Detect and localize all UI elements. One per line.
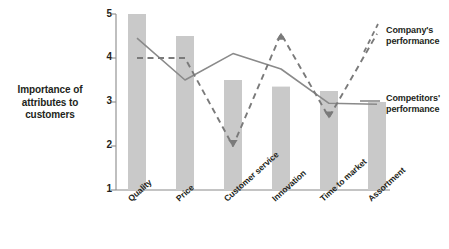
legend-item-competitors: Competitors' performance [386, 93, 440, 115]
bar-innovation [272, 87, 290, 190]
legend-item-company: Company's performance [386, 25, 439, 47]
legend-dashed-sample [364, 24, 378, 52]
bar-quality [128, 14, 146, 190]
bar-assortment [368, 102, 386, 190]
polyline-company [137, 34, 377, 146]
marker-arrow-up-innovation [276, 33, 285, 40]
polyline-competitors [137, 38, 377, 104]
legend-connectors [360, 24, 380, 101]
bar-customer-service [224, 80, 242, 190]
line-series-competitors [137, 38, 377, 104]
axis-lines [111, 14, 390, 190]
y-axis-ticks [111, 14, 116, 190]
bar-price [176, 36, 194, 190]
chart-plot-area [0, 0, 449, 249]
line-series-company [137, 34, 377, 146]
chart-container: Importance of attributes to customers 5 … [0, 0, 449, 249]
